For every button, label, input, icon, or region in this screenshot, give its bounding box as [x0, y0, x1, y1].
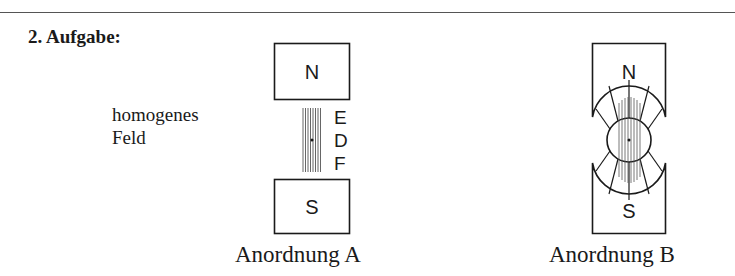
north-label-a: N	[305, 61, 319, 83]
letter-e: E	[334, 107, 347, 128]
south-label-b: S	[622, 200, 635, 222]
letter-d: D	[334, 130, 348, 151]
caption-arrangement-b: Anordnung B	[549, 242, 675, 268]
arrangement-a: N E D F S	[275, 44, 350, 234]
magnet-diagrams: N E D F S	[0, 0, 735, 276]
letter-f: F	[334, 153, 346, 174]
caption-arrangement-a: Anordnung A	[235, 242, 361, 268]
south-label-a: S	[305, 196, 318, 218]
test-point-a	[311, 139, 314, 142]
test-point-b	[628, 139, 631, 142]
north-label-b: N	[622, 61, 636, 83]
